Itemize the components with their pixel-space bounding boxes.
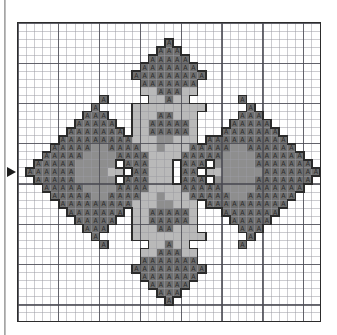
cross-stitch-chart[interactable]: AAAAAAAAAAAAAAAAAAAAAAAAAAAAAAAAAAAAAAAA… (17, 22, 321, 322)
pattern-chart-page: AAAAAAAAAAAAAAAAAAAAAAAAAAAAAAAAAAAAAAAA… (0, 0, 337, 335)
center-row-marker-icon (7, 167, 16, 177)
chart-grid-canvas: AAAAAAAAAAAAAAAAAAAAAAAAAAAAAAAAAAAAAAAA… (18, 23, 320, 321)
page-edge-rule (4, 0, 6, 335)
